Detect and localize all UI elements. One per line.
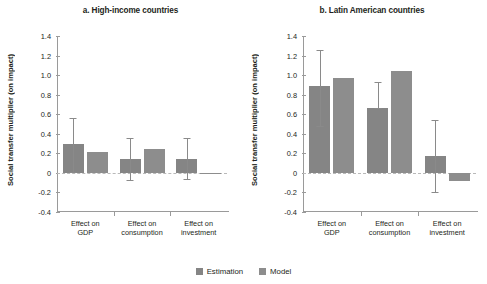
x-axis-group-label: Effect on investment — [415, 219, 479, 238]
y-axis-line — [303, 36, 304, 212]
bar-model-1 — [391, 71, 412, 173]
error-bar-0 — [320, 50, 321, 126]
y-axis-tick — [302, 212, 306, 213]
y-axis-tick-label: 1.2 — [287, 51, 297, 60]
y-axis-tick — [56, 153, 60, 154]
legend-swatch-icon — [196, 268, 203, 275]
x-axis-tick — [170, 212, 171, 216]
y-axis-tick — [56, 192, 60, 193]
error-bar-cap — [70, 118, 77, 119]
panel-b-title: b. Latin American countries — [243, 6, 487, 15]
panel-a-title: a. High-income countries — [0, 6, 243, 15]
y-axis-tick — [56, 134, 60, 135]
x-axis-group-label: Effect on GDP — [300, 219, 364, 238]
y-axis-tick — [56, 75, 60, 76]
y-axis-tick-label: -0.4 — [38, 208, 51, 217]
error-bar-cap — [127, 180, 134, 181]
y-axis-tick-label: 0 — [47, 168, 51, 177]
panel-b-y-axis-title: Social transfer multiplier (on impact) — [250, 30, 264, 210]
y-axis-tick — [302, 114, 306, 115]
y-axis-tick-label: 0.6 — [41, 110, 51, 119]
y-axis-tick-label: 1.2 — [41, 51, 51, 60]
legend-swatch-icon — [259, 268, 266, 275]
y-axis-tick — [56, 95, 60, 96]
x-axis-tick — [114, 212, 115, 216]
y-axis-tick — [302, 36, 306, 37]
x-axis-tick — [361, 212, 362, 216]
y-axis-tick-label: 0.6 — [287, 110, 297, 119]
y-axis-tick-label: 0.2 — [287, 149, 297, 158]
error-bar-1 — [130, 138, 131, 180]
error-bar-2 — [187, 138, 188, 179]
panel-b: b. Latin American countries Social trans… — [243, 0, 487, 260]
error-bar-cap — [183, 138, 190, 139]
error-bar-cap — [432, 192, 439, 193]
figure: a. High-income countries Social transfer… — [0, 0, 487, 284]
y-axis-tick-label: 0.8 — [41, 90, 51, 99]
y-axis-tick — [56, 36, 60, 37]
y-axis-tick-label: -0.2 — [284, 188, 297, 197]
bar-model-0 — [87, 152, 108, 173]
legend-label: Model — [270, 267, 291, 276]
y-axis-tick-label: 1.0 — [41, 71, 51, 80]
x-axis-line — [303, 211, 478, 212]
error-bar-cap — [374, 108, 381, 109]
x-axis-tick — [418, 212, 419, 216]
y-axis-tick-label: 0.4 — [41, 129, 51, 138]
y-axis-tick-label: -0.2 — [38, 188, 51, 197]
y-axis-tick-label: 1.4 — [41, 32, 51, 41]
y-axis-tick-label: 1.4 — [287, 32, 297, 41]
legend-item-model[interactable]: Model — [259, 267, 291, 276]
x-axis-group-label: Effect on investment — [167, 219, 231, 238]
y-axis-tick — [302, 153, 306, 154]
bar-model-1 — [144, 149, 165, 172]
error-bar-cap — [316, 126, 323, 127]
y-axis-tick — [56, 212, 60, 213]
error-bar-cap — [316, 50, 323, 51]
error-bar-0 — [73, 118, 74, 172]
bar-model-0 — [333, 78, 354, 173]
x-axis-line — [57, 211, 229, 212]
y-axis-tick-label: 0.8 — [287, 90, 297, 99]
x-axis-group-label: Effect on consumption — [358, 219, 422, 238]
y-axis-tick — [56, 56, 60, 57]
error-bar-cap — [432, 120, 439, 121]
y-axis-tick-label: 0.4 — [287, 129, 297, 138]
error-bar-cap — [374, 82, 381, 83]
panel-a-y-axis-title: Social transfer multiplier (on impact) — [6, 30, 20, 210]
bar-model-2 — [200, 173, 221, 174]
x-axis-group-label: Effect on consumption — [110, 219, 174, 238]
y-axis-tick-label: 0 — [293, 168, 297, 177]
y-axis-tick — [302, 192, 306, 193]
panel-a: a. High-income countries Social transfer… — [0, 0, 243, 260]
error-bar-cap — [127, 138, 134, 139]
bar-model-2 — [449, 173, 470, 181]
error-bar-cap — [183, 179, 190, 180]
y-axis-tick — [302, 95, 306, 96]
y-axis-tick — [302, 56, 306, 57]
chart-legend: EstimationModel — [0, 267, 487, 276]
panel-b-plot-area: 1.41.21.00.80.60.40.20-0.2-0.4Effect on … — [303, 36, 476, 212]
y-axis-tick — [302, 134, 306, 135]
error-bar-2 — [435, 120, 436, 192]
y-axis-tick-label: 0.2 — [41, 149, 51, 158]
legend-label: Estimation — [207, 267, 243, 276]
error-bar-1 — [378, 82, 379, 108]
panel-a-plot-area: 1.41.21.00.80.60.40.20-0.2-0.4Effect on … — [57, 36, 227, 212]
legend-item-estimation[interactable]: Estimation — [196, 267, 243, 276]
y-axis-line — [57, 36, 58, 212]
y-axis-tick — [302, 75, 306, 76]
error-bar-cap — [70, 172, 77, 173]
x-axis-group-label: Effect on GDP — [53, 219, 117, 238]
bar-estimation-1 — [367, 108, 388, 173]
y-axis-tick-label: -0.4 — [284, 208, 297, 217]
y-axis-tick — [56, 114, 60, 115]
y-axis-tick-label: 1.0 — [287, 71, 297, 80]
